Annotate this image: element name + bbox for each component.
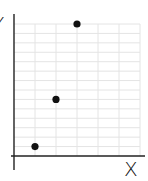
- chart-canvas: [0, 0, 148, 181]
- grid-lines: [14, 24, 140, 156]
- data-point: [73, 20, 80, 27]
- data-point: [31, 143, 38, 150]
- y-axis-label: Y: [0, 12, 4, 36]
- data-point: [52, 96, 59, 103]
- x-axis-label: X: [124, 157, 138, 181]
